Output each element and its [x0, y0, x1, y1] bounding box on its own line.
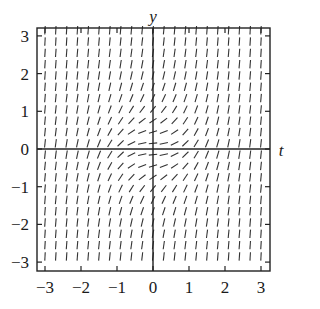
slope-segment — [196, 60, 197, 68]
slope-segment — [45, 184, 46, 192]
slope-segment — [173, 196, 176, 204]
slope-segment — [55, 184, 56, 192]
slope-segment — [139, 118, 146, 123]
slope-segment — [239, 230, 240, 238]
slope-segment — [128, 164, 135, 169]
slope-segment — [161, 106, 166, 113]
slope-segment — [217, 49, 218, 57]
slope-segment — [206, 83, 208, 91]
slope-segment — [55, 83, 56, 91]
slope-segment — [87, 184, 89, 192]
slope-segment — [205, 151, 208, 159]
slope-segment — [261, 105, 262, 113]
slope-segment — [250, 207, 251, 215]
slope-segment — [228, 196, 229, 204]
slope-segment — [184, 94, 187, 102]
slope-segment — [261, 196, 262, 204]
slope-segment — [109, 83, 111, 91]
slope-segment — [88, 241, 89, 249]
slope-segment — [129, 185, 133, 192]
slope-segment — [55, 117, 56, 125]
slope-segment — [119, 106, 123, 114]
slope-segment — [217, 184, 219, 192]
slope-segment — [173, 207, 175, 215]
slope-segment — [174, 241, 175, 249]
slope-segment — [130, 218, 132, 226]
slope-segment — [87, 105, 89, 113]
slope-segment — [109, 71, 110, 79]
slope-segment — [195, 196, 197, 204]
slope-segment — [77, 230, 78, 238]
slope-segment — [174, 230, 175, 238]
slope-segment — [160, 175, 167, 180]
slope-segment — [128, 153, 136, 157]
slope-segment — [207, 37, 208, 45]
slope-segment — [196, 37, 197, 45]
slope-segment — [66, 196, 67, 204]
slope-segment — [120, 252, 121, 260]
slope-segment — [239, 71, 240, 79]
slope-segment — [185, 60, 186, 68]
slope-segment — [99, 49, 100, 57]
slope-segment — [239, 117, 240, 125]
slope-segment — [45, 128, 46, 136]
slope-segment — [45, 49, 46, 57]
slope-segment — [108, 117, 112, 125]
slope-segment — [250, 196, 251, 204]
slope-segment — [217, 241, 218, 249]
slope-segment — [98, 162, 101, 170]
slope-segment — [228, 49, 229, 57]
x-tick-label: 1 — [185, 278, 194, 297]
slope-segment — [128, 142, 136, 146]
slope-segment — [228, 139, 230, 147]
slope-segment — [174, 252, 175, 260]
slope-segment — [45, 60, 46, 68]
slope-segment — [108, 128, 112, 135]
slope-segment — [87, 173, 89, 181]
slope-segment — [131, 49, 132, 57]
slope-segment — [130, 94, 133, 102]
slope-segment — [140, 185, 145, 192]
slope-segment — [98, 71, 99, 79]
slope-segment — [239, 218, 240, 226]
slope-segment — [205, 139, 208, 147]
slope-segment — [239, 60, 240, 68]
slope-segment — [174, 218, 176, 226]
slope-segment — [55, 196, 56, 204]
slope-segment — [163, 218, 165, 226]
slope-segment — [118, 174, 123, 181]
slope-segment — [87, 128, 89, 136]
slope-segment — [97, 151, 100, 159]
slope-segment — [45, 196, 46, 204]
slope-segment — [140, 106, 145, 113]
slope-segment — [108, 151, 112, 158]
slope-segment — [108, 105, 111, 113]
slope-segment — [185, 252, 186, 260]
t-axis-label: t — [279, 141, 285, 160]
slope-segment — [98, 105, 100, 113]
slope-segment — [130, 83, 132, 91]
slope-segment — [239, 184, 240, 192]
slope-segment — [239, 252, 240, 260]
slope-segment — [77, 49, 78, 57]
slope-segment — [66, 71, 67, 79]
slope-segment — [217, 105, 219, 113]
x-tick-label: −2 — [72, 278, 90, 297]
slope-segment — [120, 60, 121, 68]
slope-segment — [128, 130, 135, 135]
slope-segment — [142, 252, 143, 260]
slope-segment — [141, 71, 143, 79]
slope-segment — [77, 207, 78, 215]
slope-segment — [109, 60, 110, 68]
slope-segment — [228, 218, 229, 226]
slope-segment — [55, 128, 56, 136]
slope-segment — [45, 94, 46, 102]
slope-segment — [98, 185, 100, 193]
slope-segment — [66, 128, 67, 136]
slope-segment — [77, 196, 78, 204]
slope-segment — [261, 162, 262, 170]
slope-segment — [250, 252, 251, 260]
slope-segment — [88, 71, 89, 79]
slope-segment — [261, 150, 262, 158]
slope-segment — [131, 230, 132, 238]
